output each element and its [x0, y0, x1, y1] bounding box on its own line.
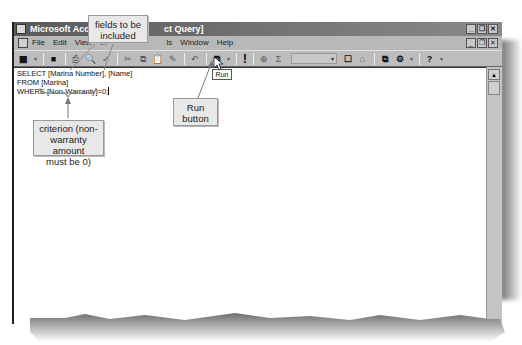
callout-criterion-line1: criterion (non- [34, 123, 103, 134]
callout-run-line1: Run [174, 102, 217, 113]
callout-fields-line2: included [89, 30, 147, 41]
callout-fields-included: fields to be included [88, 15, 148, 43]
callout-fields-line1: fields to be [89, 19, 147, 30]
callout-criterion: criterion (non- warranty amount must be … [33, 120, 104, 156]
callout-run-line2: button [174, 113, 217, 124]
callout-run-button: Run button [173, 98, 218, 126]
annotation-lines [0, 0, 522, 345]
callout-criterion-line2: warranty amount [34, 134, 103, 156]
callout-criterion-line3: must be 0) [34, 156, 103, 167]
